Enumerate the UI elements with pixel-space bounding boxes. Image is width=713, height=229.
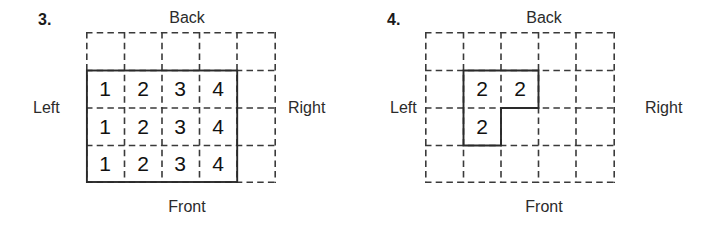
cell-value: 2 [463,70,501,108]
cell-value: 3 [161,70,199,108]
problem-4-label-back: Back [357,10,713,26]
problem-4-label-right: Right [645,100,682,116]
cell-value: 2 [124,145,162,183]
cell-value: 1 [86,108,124,146]
problem-4-label-front: Front [357,199,713,215]
problem-4-cell-numbers: 2 2 2 [425,32,615,183]
problem-3-grid: 1 2 3 4 1 2 3 4 1 2 3 4 [86,32,276,183]
cell-value: 1 [86,145,124,183]
problem-4-label-left: Left [390,100,417,116]
problem-4-grid: 2 2 2 [425,32,615,183]
cell-value: 2 [463,108,501,146]
problem-3-cell-numbers: 1 2 3 4 1 2 3 4 1 2 3 4 [86,32,276,183]
worksheet-page: 3. Back Left Right Front [0,0,713,229]
cell-value: 2 [124,70,162,108]
cell-value: 3 [161,108,199,146]
cell-value: 4 [199,145,237,183]
cell-value: 2 [124,108,162,146]
problem-3-label-left: Left [33,100,60,116]
cell-value: 3 [161,145,199,183]
cell-value: 4 [199,70,237,108]
problem-3: 3. Back Left Right Front [0,0,356,229]
cell-value: 2 [501,70,539,108]
cell-value: 1 [86,70,124,108]
problem-3-label-front: Front [0,199,356,215]
problem-4: 4. Back Left Right Front [357,0,713,229]
problem-3-label-right: Right [288,100,325,116]
cell-value: 4 [199,108,237,146]
problem-3-label-back: Back [0,10,356,26]
